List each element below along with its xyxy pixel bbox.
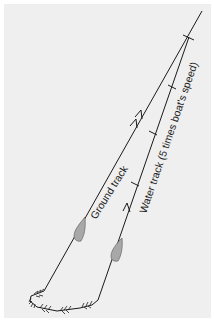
boat-track-diagram: Ground track Water track (5 times boat's…: [0, 0, 214, 321]
boat-water-track-icon: [111, 238, 122, 261]
ground-track-line: [44, 11, 202, 291]
ground-track-arrow-icon: [135, 110, 142, 119]
ground-track-label: Ground track: [88, 163, 131, 221]
turn-loop: [29, 289, 98, 314]
ground-track-arrow-icon: [130, 119, 137, 128]
ground-track: [44, 11, 202, 291]
water-track-line: [98, 37, 189, 300]
water-track-label: Water track (5 times boat's speed): [137, 60, 200, 214]
boat-ground-track-icon: [74, 217, 85, 241]
